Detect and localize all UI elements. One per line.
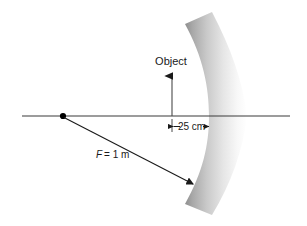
- object-label: Object: [155, 55, 187, 67]
- focal-value: = 1 m: [104, 149, 129, 160]
- optics-figure: Object F= 1 m 25 cm: [0, 0, 307, 226]
- ray-diagram-canvas: Object F= 1 m 25 cm: [0, 0, 307, 226]
- focal-length-label: F= 1 m: [96, 149, 129, 160]
- distance-label: 25 cm: [178, 121, 205, 132]
- focal-symbol: F: [96, 149, 103, 160]
- concave-mirror: [185, 12, 247, 215]
